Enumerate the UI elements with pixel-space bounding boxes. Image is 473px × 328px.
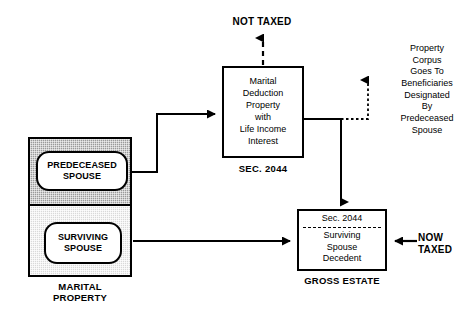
tax-flow-diagram: PREDECEASED SPOUSE SURVIVING SPOUSE MARI… [0,0,473,328]
marital-property-label: MARITAL PROPERTY [24,281,136,303]
surviving-spouse-pill: SURVIVING SPOUSE [44,222,122,264]
connector-deduction-to-gross-estate [304,119,341,202]
connector-predeceased-to-deduction [131,114,215,172]
connector-corpus-to-beneficiaries [341,80,368,119]
gross-estate-body-text: Surviving Spouse Decedent [299,230,385,265]
gross-estate-dashed-divider [303,227,381,228]
now-taxed-annotation: NOW TAXED [418,232,470,256]
surviving-spouse-section: SURVIVING SPOUSE [30,206,130,275]
not-taxed-annotation: NOT TAXED [214,16,310,28]
marital-deduction-box: Marital Deduction Property with Life Inc… [222,66,304,158]
marital-deduction-caption: SEC. 2044 [218,163,308,174]
marital-property-block: PREDECEASED SPOUSE SURVIVING SPOUSE [28,137,132,277]
marital-deduction-body-text: Marital Deduction Property with Life Inc… [240,76,287,147]
beneficiaries-note-annotation: Property Corpus Goes To Beneficiaries De… [381,43,473,137]
gross-estate-section-label: Sec. 2044 [299,213,385,223]
predeceased-spouse-pill: PREDECEASED SPOUSE [36,151,128,191]
gross-estate-box: Sec. 2044 Surviving Spouse Decedent [297,209,387,271]
predeceased-spouse-section: PREDECEASED SPOUSE [30,139,130,206]
gross-estate-caption: GROSS ESTATE [291,275,393,286]
